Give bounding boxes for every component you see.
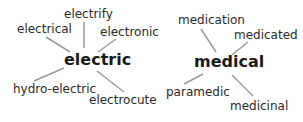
word-medication: medication: [178, 13, 245, 27]
word-paramedic: paramedic: [166, 85, 230, 99]
word-electrify: electrify: [64, 7, 113, 21]
word-electrocute: electrocute: [89, 93, 157, 107]
center-word-electric: electric: [64, 51, 131, 69]
word-medicinal: medicinal: [230, 99, 288, 113]
word-medicated: medicated: [234, 28, 298, 42]
center-word-medical: medical: [194, 53, 264, 71]
word-electrical: electrical: [17, 22, 72, 36]
word-hydro-electric: hydro-electric: [13, 82, 96, 96]
word-electronic: electronic: [100, 25, 159, 39]
